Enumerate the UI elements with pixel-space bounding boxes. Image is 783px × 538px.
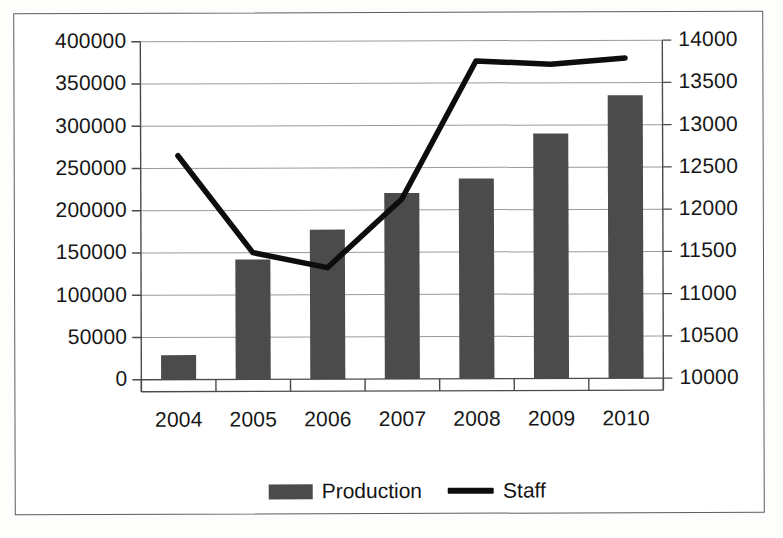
left-axis-tick-100000: 100000 <box>17 282 127 306</box>
left-axis-tick-350000: 350000 <box>16 71 126 95</box>
legend-item-production: Production <box>269 479 422 503</box>
right-axis-tick-10500: 10500 <box>679 322 783 346</box>
legend-item-staff: Staff <box>448 479 546 503</box>
right-axis-tick-12500: 12500 <box>679 153 783 177</box>
left-axis-tick-250000: 250000 <box>17 156 127 180</box>
right-axis-line <box>662 40 672 390</box>
chart-frame: 0500001000001500002000002500003000003500… <box>13 11 765 515</box>
right-axis-tick-13000: 13000 <box>679 111 783 135</box>
left-axis-tick-200000: 200000 <box>17 198 127 222</box>
left-axis-tick-0: 0 <box>17 367 127 391</box>
legend-label-staff: Staff <box>503 479 546 503</box>
legend-line-swatch-icon <box>448 488 494 494</box>
right-axis-tick-14000: 14000 <box>678 27 783 51</box>
x-axis-tick-2010: 2010 <box>581 406 671 430</box>
right-axis-tick-11500: 11500 <box>679 238 783 262</box>
chart-legend: Production Staff <box>16 478 783 504</box>
right-axis-tick-10000: 10000 <box>679 365 783 389</box>
left-axis-tick-150000: 150000 <box>17 240 127 264</box>
legend-label-production: Production <box>322 479 422 503</box>
right-axis-tick-11000: 11000 <box>679 280 783 304</box>
right-axis-tick-12000: 12000 <box>679 196 783 220</box>
left-axis-tick-400000: 400000 <box>16 29 126 53</box>
left-axis-tick-300000: 300000 <box>17 113 127 137</box>
legend-bar-swatch-icon <box>269 484 313 499</box>
chart-page: 0500001000001500002000002500003000003500… <box>0 0 783 538</box>
left-axis-tick-50000: 50000 <box>17 325 127 349</box>
left-axis-line <box>131 42 141 392</box>
right-axis-tick-13500: 13500 <box>678 69 783 93</box>
